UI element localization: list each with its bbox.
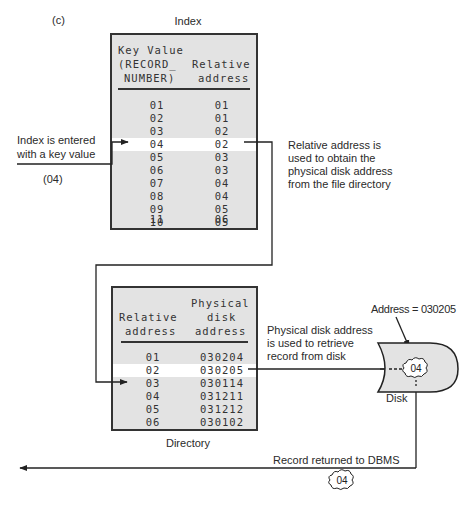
index-entry-arrow bbox=[17, 142, 128, 164]
index-to-directory-line bbox=[96, 142, 272, 382]
returned-record-value: 04 bbox=[332, 475, 352, 486]
disk-record-value: 04 bbox=[406, 363, 426, 374]
connector-lines bbox=[0, 0, 464, 505]
